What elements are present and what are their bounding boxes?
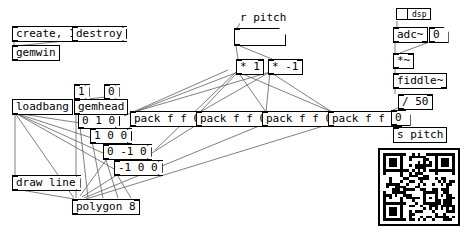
object-pack-3-label: pack f f 0: [266, 112, 332, 125]
inlet-nub: [105, 84, 110, 86]
inlet-nub: [399, 94, 404, 96]
outlet-nub: [399, 108, 404, 110]
inlet-nub: [394, 53, 399, 55]
toggle-dsp-label: dsp: [408, 8, 431, 20]
message-zero-label: 0: [108, 85, 115, 98]
outlet-nub: [131, 125, 136, 127]
outlet-nub: [104, 158, 109, 160]
inlet-nub: [73, 26, 78, 28]
outlet-nub: [394, 41, 399, 43]
message-zero[interactable]: 0: [104, 84, 120, 100]
message-create-label: create, 1: [16, 27, 76, 40]
inlet-nub: [329, 111, 334, 113]
inlet-nub-right: [297, 59, 302, 61]
object-multiply-signal[interactable]: *~: [393, 53, 414, 69]
pd-patch-canvas[interactable]: create, 1 destroy 1 0 0 1 0 1 0 0 0 -1 0…: [0, 0, 472, 235]
number-box-adc-gain[interactable]: 0: [429, 27, 449, 43]
inlet-nub: [91, 128, 96, 130]
object-gemhead-label: gemhead: [78, 100, 124, 113]
inlet-nub: [269, 59, 274, 61]
outlet-nub: [13, 59, 18, 61]
outlet-nub: [392, 124, 397, 126]
message-vertex-1-0-0[interactable]: 1 0 0: [90, 128, 132, 144]
object-pack-3[interactable]: pack f f 0: [262, 111, 336, 127]
inlet-nub: [13, 45, 18, 47]
object-divide-50[interactable]: / 50: [398, 94, 433, 110]
inlet-nub: [237, 59, 242, 61]
object-send-pitch[interactable]: s pitch: [393, 127, 447, 143]
inlet-nub: [235, 28, 240, 30]
object-pack-2[interactable]: pack f f 0: [196, 111, 270, 127]
inlet-nub: [13, 175, 18, 177]
inlet-nub: [75, 84, 80, 86]
object-pack-4-label: pack f f 0: [332, 112, 398, 125]
outlet-nub: [13, 189, 18, 191]
outlet-nub: [197, 125, 202, 127]
object-multiply-1[interactable]: * 1: [236, 59, 264, 75]
outlet-nub: [73, 40, 78, 42]
inlet-nub: [13, 26, 18, 28]
message-draw-line[interactable]: draw line: [12, 175, 81, 191]
number-box-pitch-out-value: 0: [395, 111, 402, 124]
object-multiply-1-label: * 1: [240, 60, 260, 73]
outlet-nub: [269, 73, 274, 75]
object-gemhead[interactable]: gemhead: [74, 99, 128, 115]
object-polygon[interactable]: polygon 8: [72, 199, 140, 215]
message-one-label: 1: [78, 85, 85, 98]
object-adc-label: adc~: [397, 28, 424, 41]
inlet-nub: [394, 27, 399, 29]
outlet-nub: [329, 125, 334, 127]
number-box-pitch-out[interactable]: 0: [391, 110, 411, 126]
object-multiply-signal-label: *~: [397, 54, 410, 67]
message-destroy[interactable]: destroy: [72, 26, 127, 42]
outlet-nub: [75, 113, 80, 115]
message-destroy-label: destroy: [76, 27, 122, 40]
toggle-dsp[interactable]: dsp: [396, 8, 431, 20]
inlet-nub: [263, 111, 268, 113]
object-multiply-neg1[interactable]: * -1: [268, 59, 303, 75]
outlet-nub: [263, 125, 268, 127]
message-create[interactable]: create, 1: [12, 26, 81, 42]
outlet-nub: [91, 142, 96, 144]
message-vertex-neg1-0-0-label: -1 0 0: [118, 161, 158, 174]
object-pack-2-label: pack f f 0: [200, 112, 266, 125]
outlet-nub: [79, 127, 84, 129]
checkbox-icon[interactable]: [396, 8, 408, 20]
outlet-nub: [394, 67, 399, 69]
object-fiddle[interactable]: fiddle~: [393, 73, 447, 89]
message-vertex-0-neg1-0[interactable]: 0 -1 0: [103, 144, 152, 160]
inlet-nub-right: [408, 53, 413, 55]
inlet-nub: [104, 144, 109, 146]
inlet-nub: [73, 199, 78, 201]
message-draw-line-label: draw line: [16, 176, 76, 189]
outlet-nub: [13, 113, 18, 115]
message-vertex-0-neg1-0-label: 0 -1 0: [107, 145, 147, 158]
message-vertex-0-1-0[interactable]: 0 1 0: [78, 113, 120, 129]
object-gemwin[interactable]: gemwin: [12, 45, 60, 61]
message-vertex-0-1-0-label: 0 1 0: [82, 114, 115, 127]
message-one[interactable]: 1: [74, 84, 90, 100]
outlet-nub-right: [441, 87, 446, 89]
outlet-nub: [13, 40, 18, 42]
outlet-nub: [394, 87, 399, 89]
inlet-nub: [197, 111, 202, 113]
outlet-nub: [237, 73, 242, 75]
object-loadbang-label: loadbang: [16, 100, 69, 113]
qr-code-image: [378, 148, 460, 226]
outlet-nub: [73, 213, 78, 215]
outlet-nub: [115, 174, 120, 176]
object-loadbang[interactable]: loadbang: [12, 99, 73, 115]
inlet-nub: [394, 127, 399, 129]
number-box-adc-gain-value: 0: [433, 28, 440, 41]
message-vertex-neg1-0-0[interactable]: -1 0 0: [114, 160, 163, 176]
inlet-nub: [131, 111, 136, 113]
inlet-nub-right: [258, 59, 263, 61]
object-adc[interactable]: adc~: [393, 27, 428, 43]
object-pack-1[interactable]: pack f f 0: [130, 111, 204, 127]
inlet-nub-right: [427, 94, 432, 96]
inlet-nub: [75, 99, 80, 101]
object-gemwin-label: gemwin: [16, 46, 56, 59]
number-box-pitch-display[interactable]: [234, 28, 286, 46]
object-fiddle-label: fiddle~: [397, 74, 443, 87]
outlet-nub-right: [422, 41, 427, 43]
